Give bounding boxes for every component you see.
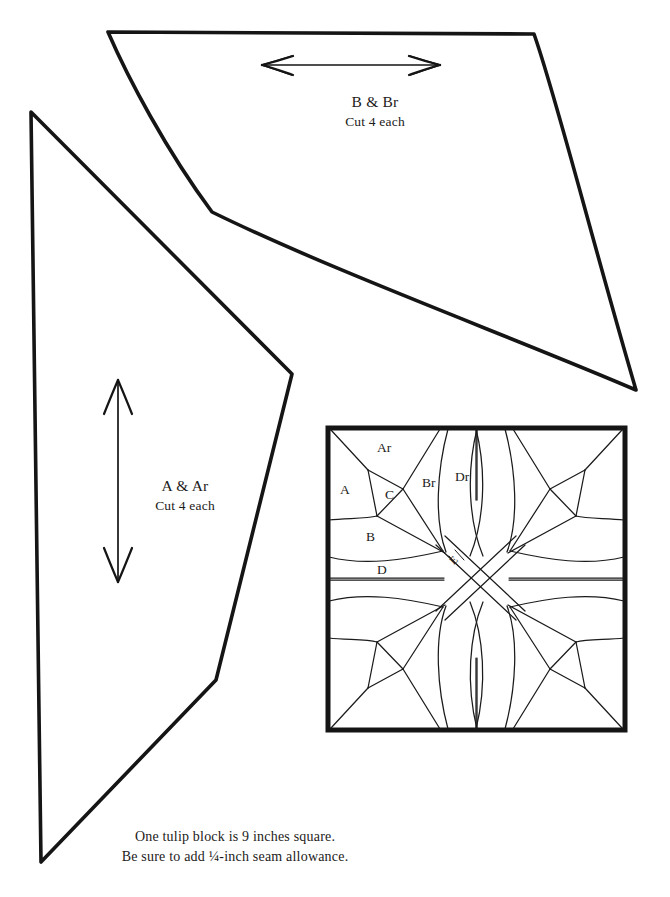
block-label-b: B: [366, 529, 375, 545]
block-label-d: D: [377, 562, 387, 578]
block-label-br: Br: [422, 475, 436, 491]
template-label-a-name: A & Ar: [162, 477, 209, 494]
pattern-caption: One tulip block is 9 inches square. Be s…: [70, 827, 400, 868]
caption-line-1: One tulip block is 9 inches square.: [70, 827, 400, 847]
template-label-b-cut: Cut 4 each: [285, 113, 465, 130]
block-diagram: [328, 428, 625, 730]
template-label-b-name: B & Br: [352, 93, 399, 110]
template-label-b: B & Br Cut 4 each: [285, 92, 465, 130]
pattern-drawing: [0, 0, 670, 897]
template-label-a: A & Ar Cut 4 each: [95, 476, 275, 514]
block-label-dr: Dr: [455, 469, 469, 485]
template-label-a-cut: Cut 4 each: [95, 497, 275, 514]
caption-line-2: Be sure to add ¼-inch seam allowance.: [70, 847, 400, 867]
block-label-ar: Ar: [377, 440, 391, 456]
block-label-c: C: [385, 487, 394, 503]
block-label-a: A: [340, 482, 350, 498]
pattern-sheet: B & Br Cut 4 each A & Ar Cut 4 each A Ar…: [0, 0, 670, 897]
